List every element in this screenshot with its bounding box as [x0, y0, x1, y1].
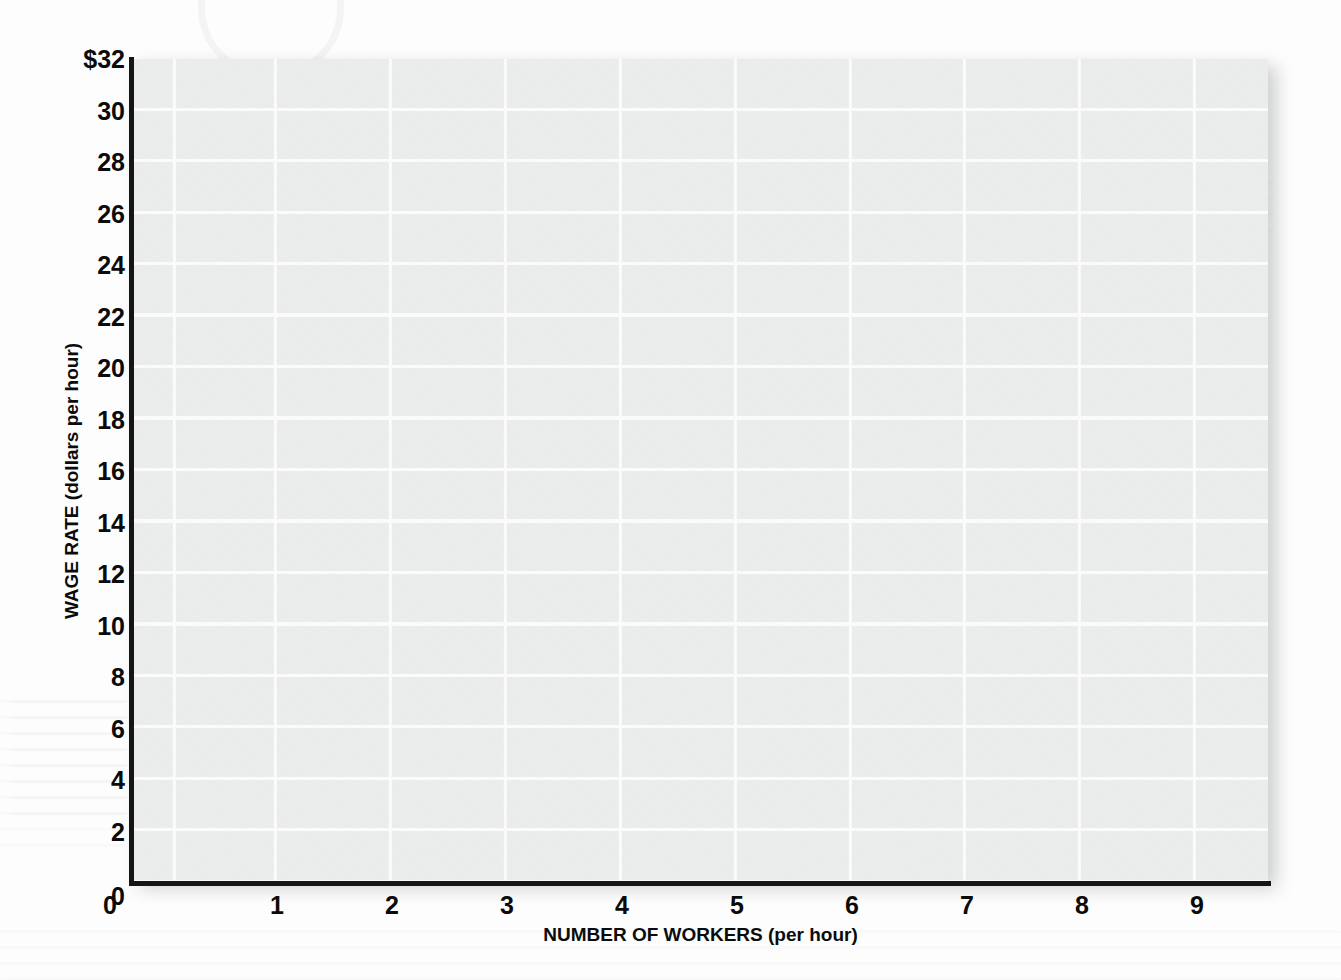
x-tick-label: 0 [70, 893, 150, 918]
x-tick-label: 3 [467, 893, 547, 918]
x-tick-label: 9 [1157, 893, 1237, 918]
x-tick-label: 5 [697, 893, 777, 918]
x-tick-label: 6 [812, 893, 892, 918]
y-axis-title: WAGE RATE (dollars per hour) [61, 81, 83, 881]
wage-rate-worker-grid-chart: $32 30 28 26 24 22 20 18 16 14 12 10 8 6… [0, 0, 1341, 980]
x-tick-label: 4 [582, 893, 662, 918]
x-tick-label: 1 [237, 893, 317, 918]
y-axis-line [129, 57, 134, 886]
x-axis-title: NUMBER OF WORKERS (per hour) [133, 924, 1268, 946]
plot-grid-area[interactable] [133, 59, 1268, 883]
y-tick-label: $32 [5, 47, 125, 72]
x-tick-label: 8 [1042, 893, 1122, 918]
x-tick-label: 2 [352, 893, 432, 918]
x-axis-line [129, 881, 1271, 886]
x-tick-label: 7 [927, 893, 1007, 918]
